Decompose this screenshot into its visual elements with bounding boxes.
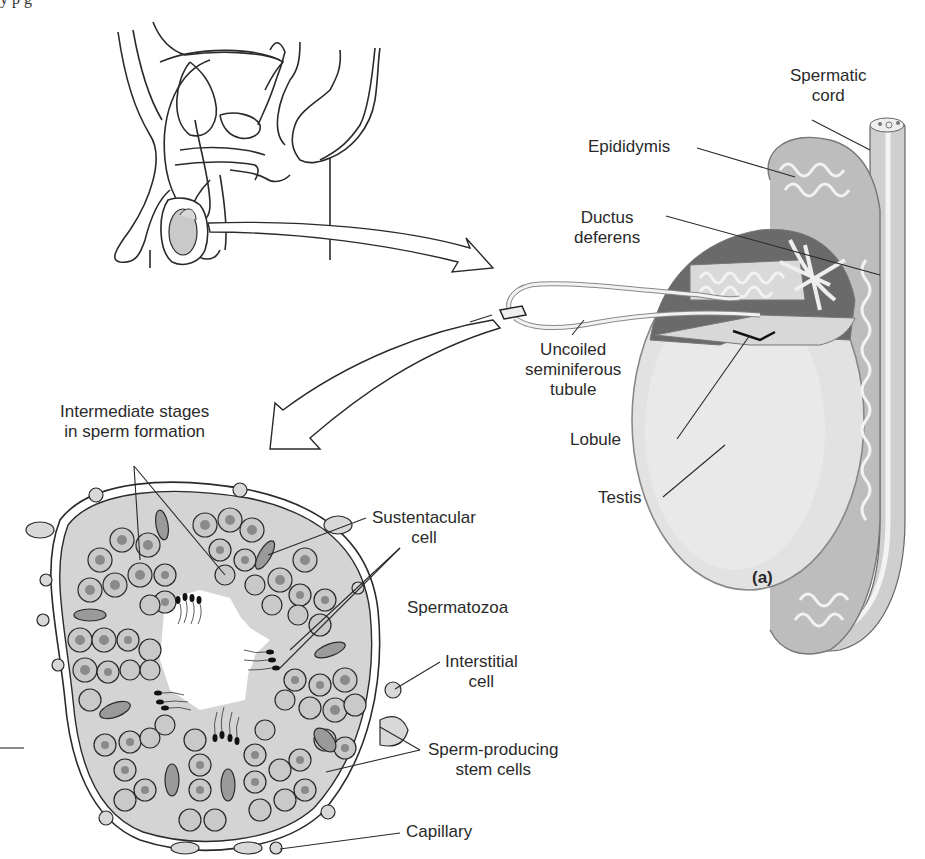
label-interstitial-cell: Interstitial cell	[445, 652, 518, 692]
label-intermediate-stages: Intermediate stages in sperm formation	[60, 402, 209, 442]
label-line: Spermatic	[790, 66, 867, 86]
label-ductus-deferens: Ductus deferens	[574, 208, 640, 248]
panel-label-a: (a)	[752, 568, 773, 588]
label-line: Intermediate stages	[60, 402, 209, 422]
scrotum-testis-small	[161, 198, 208, 264]
label-line: Uncoiled	[525, 340, 621, 360]
label-line: in sperm formation	[60, 422, 209, 442]
label-epididymis: Epididymis	[588, 137, 670, 157]
label-lobule: Lobule	[570, 430, 621, 450]
label-line: Ductus	[574, 208, 640, 228]
label-testis: Testis	[598, 488, 641, 508]
label-line: tubule	[525, 380, 621, 400]
arrow-to-testis	[208, 222, 493, 272]
label-line: Sperm-producing	[428, 740, 558, 760]
label-line: seminiferous	[525, 360, 621, 380]
label-line: cell	[445, 672, 518, 692]
label-line: deferens	[574, 228, 640, 248]
label-uncoiled-seminiferous-tubule: Uncoiled seminiferous tubule	[525, 340, 621, 400]
label-sperm-producing-stem-cells: Sperm-producing stem cells	[428, 740, 558, 780]
label-line: Interstitial	[445, 652, 518, 672]
label-spermatozoa: Spermatozoa	[407, 598, 508, 618]
label-line: Sustentacular	[372, 508, 476, 528]
arrow-to-cross-section	[270, 320, 500, 449]
label-capillary: Capillary	[406, 822, 472, 842]
label-spermatic-cord: Spermatic cord	[790, 66, 867, 106]
label-line: cord	[790, 86, 867, 106]
label-sustentacular-cell: Sustentacular cell	[372, 508, 476, 548]
label-line: stem cells	[428, 760, 558, 780]
label-line: cell	[372, 528, 476, 548]
